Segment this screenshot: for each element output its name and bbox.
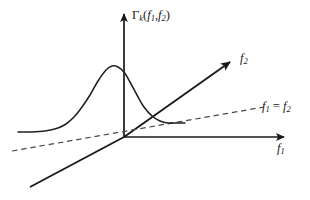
depth-axis-line <box>30 137 124 187</box>
f1-axis-label: f1 <box>277 142 285 156</box>
f2-axis-label: f2 <box>240 52 248 66</box>
vertical-axis-label: Γk(f1,f2) <box>132 9 170 23</box>
peak-curve-path <box>18 66 185 132</box>
gamma-argument: (f1,f2) <box>143 8 170 22</box>
diagonal-line-label: f1 = f2 <box>262 100 291 114</box>
figure-container: Γk(f1,f2) f2 f1 f1 = f2 <box>0 0 310 200</box>
diagonal-dashed-line <box>12 107 264 151</box>
